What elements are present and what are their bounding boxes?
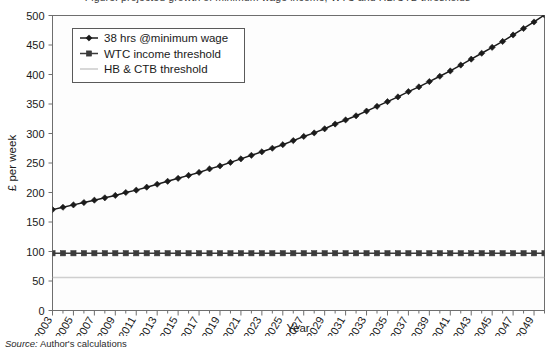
data-point	[542, 251, 547, 256]
data-point	[322, 251, 327, 256]
data-point	[249, 251, 254, 256]
figure-container: Figure: projected growth of minimum wage…	[0, 0, 555, 356]
data-point	[353, 251, 358, 256]
y-tick-label: 500	[26, 10, 44, 22]
y-tick-label: 200	[26, 187, 44, 199]
data-point	[186, 251, 191, 256]
x-tick-label: 2005	[53, 315, 76, 337]
y-tick-label: 100	[26, 246, 44, 258]
data-point	[437, 251, 442, 256]
data-point	[490, 251, 495, 256]
data-point	[176, 251, 181, 256]
data-point	[113, 251, 118, 256]
data-point	[155, 251, 160, 256]
data-point	[427, 251, 432, 256]
x-tick-label: 2019	[199, 315, 222, 337]
data-point	[458, 251, 463, 256]
x-tick-label: 2017	[178, 315, 201, 337]
data-point	[144, 251, 149, 256]
x-tick-label: 2021	[220, 315, 243, 337]
x-tick-label: 2013	[136, 315, 159, 337]
data-point	[416, 251, 421, 256]
data-point	[196, 251, 201, 256]
y-tick-label: 450	[26, 39, 44, 51]
data-point	[395, 251, 400, 256]
data-point	[207, 251, 212, 256]
legend-item-label: 38 hrs @minimum wage	[104, 32, 228, 44]
chart-svg: 050100150200250300350400450500 200320052…	[0, 0, 555, 336]
x-axis-label: Year	[286, 322, 309, 334]
x-tick-label: 2009	[94, 315, 117, 337]
data-point	[510, 251, 515, 256]
data-point	[280, 251, 285, 256]
y-axis-ticks: 050100150200250300350400450500	[26, 10, 52, 317]
data-point	[81, 251, 86, 256]
data-point	[259, 251, 264, 256]
data-point	[406, 251, 411, 256]
data-point	[165, 251, 170, 256]
data-point	[291, 251, 296, 256]
x-tick-label: 2043	[450, 315, 473, 337]
data-point	[301, 251, 306, 256]
x-tick-label: 2047	[492, 315, 515, 337]
y-tick-label: 400	[26, 69, 44, 81]
data-point	[270, 251, 275, 256]
legend-item-label: WTC income threshold	[104, 48, 221, 60]
data-point	[364, 251, 369, 256]
x-tick-label: 2049	[513, 315, 536, 337]
data-point	[228, 251, 233, 256]
x-tick-label: 2039	[408, 315, 431, 337]
x-tick-label: 2035	[367, 315, 390, 337]
data-point	[123, 251, 128, 256]
y-tick-label: 150	[26, 216, 44, 228]
x-tick-label: 2033	[346, 315, 369, 337]
x-tick-label: 2023	[241, 315, 264, 337]
data-point	[385, 251, 390, 256]
data-point	[333, 251, 338, 256]
source-note: Source: Author's calculations	[5, 338, 127, 349]
source-text: Author's calculations	[40, 338, 127, 349]
x-tick-label: 2031	[325, 315, 348, 337]
data-point	[71, 251, 76, 256]
y-tick-label: 250	[26, 157, 44, 169]
y-tick-label: 50	[32, 275, 44, 287]
y-axis-label: £ per week	[6, 135, 18, 192]
x-tick-label: 2041	[429, 315, 452, 337]
y-tick-label: 300	[26, 128, 44, 140]
x-tick-label: 2011	[116, 315, 138, 337]
data-point	[92, 251, 97, 256]
data-point	[531, 251, 536, 256]
x-tick-label: 2007	[73, 315, 96, 337]
x-tick-label: 2025	[262, 315, 285, 337]
chart-legend: 38 hrs @minimum wageWTC income threshold…	[73, 29, 245, 83]
data-point	[238, 251, 243, 256]
data-point	[134, 251, 139, 256]
data-point	[312, 251, 317, 256]
data-point	[448, 251, 453, 256]
data-point	[374, 251, 379, 256]
legend-item-label: HB & CTB threshold	[104, 63, 208, 75]
x-tick-label: 2045	[471, 314, 494, 336]
x-tick-label: 2015	[157, 315, 180, 337]
y-tick-label: 350	[26, 98, 44, 110]
source-label: Source:	[5, 338, 38, 349]
x-tick-label: 2003	[32, 315, 55, 337]
data-point	[86, 51, 91, 56]
data-point	[60, 251, 65, 256]
x-tick-label: 2037	[388, 315, 411, 337]
data-point	[479, 251, 484, 256]
data-point	[469, 251, 474, 256]
data-point	[343, 251, 348, 256]
data-point	[500, 251, 505, 256]
data-point	[521, 251, 526, 256]
data-point	[102, 251, 107, 256]
data-point	[217, 251, 222, 256]
